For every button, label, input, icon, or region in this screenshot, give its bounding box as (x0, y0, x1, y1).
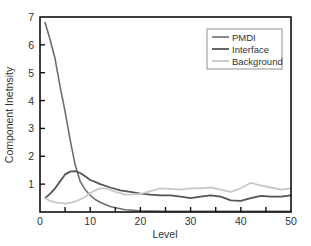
y-axis-ticks: 1234567 (28, 11, 45, 190)
y-tick-label: 6 (28, 39, 34, 51)
y-tick-label: 3 (28, 122, 34, 134)
x-axis-ticks: 01020304050 (37, 207, 297, 227)
line-chart: 01020304050 1234567 Level Component Inet… (0, 0, 311, 246)
y-tick-label: 1 (28, 178, 34, 190)
x-tick-label: 50 (285, 215, 297, 227)
series-line-background (45, 183, 291, 204)
x-tick-label: 20 (135, 215, 147, 227)
x-tick-label: 0 (37, 215, 43, 227)
series-line-interface (45, 171, 291, 201)
y-tick-label: 5 (28, 67, 34, 79)
x-tick-label: 30 (185, 215, 197, 227)
y-axis-label: Component Inetnsity (3, 66, 15, 163)
x-tick-label: 10 (84, 215, 96, 227)
legend-label-pmdi: PMDI (232, 32, 256, 43)
x-axis-label: Level (152, 228, 177, 240)
legend-label-interface: Interface (232, 44, 269, 55)
legend: PMDIInterfaceBackground (207, 29, 283, 69)
legend-label-background: Background (232, 56, 283, 67)
y-tick-label: 2 (28, 150, 34, 162)
y-tick-label: 4 (28, 95, 34, 107)
x-tick-label: 40 (235, 215, 247, 227)
y-tick-label: 7 (28, 11, 34, 23)
